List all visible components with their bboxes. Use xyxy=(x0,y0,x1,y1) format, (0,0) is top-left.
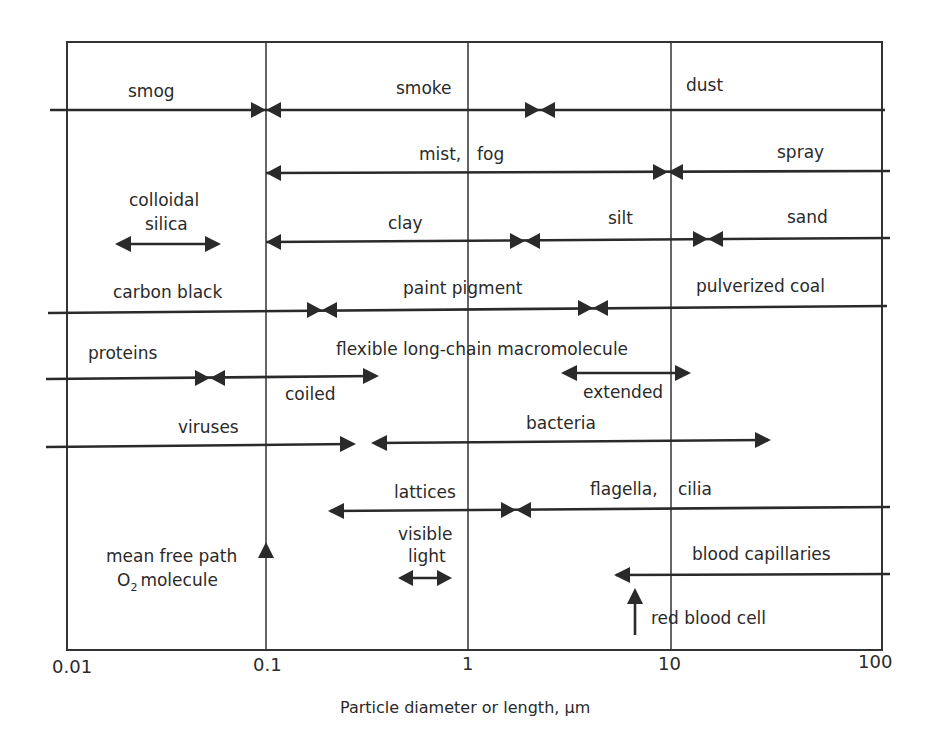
arrowhead-right-icon xyxy=(307,302,322,318)
label-bacteria: bacteria xyxy=(526,413,596,433)
arrowhead-right-icon xyxy=(510,233,525,249)
arrowhead-right-icon xyxy=(501,502,516,518)
arrowhead-right-icon xyxy=(340,436,356,452)
label-mean-free-path: mean free path xyxy=(106,546,237,566)
label-o2-molecule: O2molecule xyxy=(117,570,218,594)
o2-O: O xyxy=(117,570,130,590)
range-line-viruses xyxy=(46,444,352,447)
arrowhead-right-icon xyxy=(675,365,691,381)
diagram-canvas: smog smoke dust mist, fog spray colloida… xyxy=(0,0,927,736)
row-light-capillaries: visible light blood capillaries red bloo… xyxy=(106,524,890,635)
range-line xyxy=(266,171,890,173)
row-lattices-flagella: lattices flagella, cilia xyxy=(328,479,890,519)
label-flagella: flagella, xyxy=(590,479,658,499)
x-axis: 0.01 0.1 1 10 100 Particle diameter or l… xyxy=(52,651,892,717)
label-smog: smog xyxy=(128,81,175,101)
range-line xyxy=(330,507,890,511)
tick-0-1: 0.1 xyxy=(253,654,282,675)
arrowhead-right-icon xyxy=(525,102,540,118)
label-mist: mist, xyxy=(419,144,461,164)
row-mist-fog-spray: mist, fog spray xyxy=(266,142,890,181)
arrowhead-left-icon xyxy=(540,102,555,118)
tick-0-01: 0.01 xyxy=(52,656,92,677)
arrowhead-right-icon xyxy=(578,300,593,316)
label-light: light xyxy=(408,546,446,566)
arrowhead-left-icon xyxy=(371,435,387,451)
label-clay: clay xyxy=(388,213,423,233)
arrowhead-left-icon xyxy=(328,503,344,519)
arrowhead-right-icon xyxy=(195,370,210,386)
arrowhead-left-icon xyxy=(266,102,281,118)
arrowhead-right-icon xyxy=(693,231,708,247)
label-visible: visible xyxy=(398,524,452,544)
label-carbon-black: carbon black xyxy=(113,282,222,302)
label-silica: silica xyxy=(145,214,188,234)
label-paint-pigment: paint pigment xyxy=(403,278,523,298)
arrowhead-left-icon xyxy=(561,365,577,381)
label-macromolecule: flexible long-chain macromolecule xyxy=(336,339,628,359)
arrowhead-left-icon xyxy=(266,234,281,250)
label-dust: dust xyxy=(686,75,723,95)
arrowhead-right-icon xyxy=(755,432,771,448)
x-axis-title: Particle diameter or length, μm xyxy=(340,698,590,717)
label-pulverized-coal: pulverized coal xyxy=(696,276,825,296)
label-fog: fog xyxy=(477,144,504,164)
arrowhead-left-icon xyxy=(525,233,540,249)
particle-size-diagram: smog smoke dust mist, fog spray colloida… xyxy=(0,0,927,736)
o2-molecule-text: molecule xyxy=(140,570,217,590)
range-line xyxy=(266,238,890,242)
arrowhead-up-icon xyxy=(627,588,643,604)
arrowhead-left-icon xyxy=(516,502,531,518)
label-colloidal: colloidal xyxy=(129,190,199,210)
arrowhead-left-icon xyxy=(593,300,608,316)
arrowhead-right-icon xyxy=(437,570,452,586)
arrowhead-left-icon xyxy=(210,370,225,386)
range-line-bacteria xyxy=(374,440,768,443)
arrowhead-left-icon xyxy=(398,570,413,586)
arrowhead-left-icon xyxy=(708,231,723,247)
range-line-blood-capillaries xyxy=(616,574,890,575)
arrowhead-right-icon xyxy=(653,164,668,180)
label-smoke: smoke xyxy=(396,78,452,98)
arrowhead-right-icon xyxy=(205,236,221,252)
arrowhead-left-icon xyxy=(115,236,131,252)
label-spray: spray xyxy=(777,142,824,162)
label-extended: extended xyxy=(583,382,663,402)
arrowhead-left-icon xyxy=(266,165,281,181)
arrowhead-left-icon xyxy=(322,302,337,318)
label-red-blood-cell: red blood cell xyxy=(651,608,766,628)
label-cilia: cilia xyxy=(678,479,712,499)
label-viruses: viruses xyxy=(178,417,239,437)
row-proteins-macromolecule: proteins flexible long-chain macromolecu… xyxy=(46,339,691,404)
arrowhead-right-icon xyxy=(251,102,266,118)
o2-subscript: 2 xyxy=(130,581,137,594)
row-colloidal-clay-silt-sand: colloidal silica clay silt sand xyxy=(115,190,890,252)
label-coiled: coiled xyxy=(285,384,335,404)
label-silt: silt xyxy=(608,208,633,228)
tick-10: 10 xyxy=(658,653,681,674)
row-viruses-bacteria: viruses bacteria xyxy=(46,413,771,452)
arrowhead-up-icon xyxy=(258,542,274,558)
label-sand: sand xyxy=(787,207,828,227)
label-blood-capillaries: blood capillaries xyxy=(692,544,831,564)
tick-100: 100 xyxy=(858,651,892,672)
arrowhead-right-icon xyxy=(363,368,379,384)
range-line xyxy=(46,376,375,379)
label-lattices: lattices xyxy=(394,482,456,502)
label-proteins: proteins xyxy=(88,343,157,363)
tick-1: 1 xyxy=(462,653,473,674)
arrowhead-left-icon xyxy=(614,567,630,583)
